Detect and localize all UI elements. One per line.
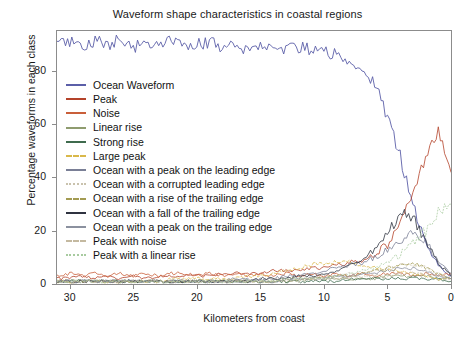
legend-swatch-line-icon	[66, 127, 86, 129]
x-tick-label: 15	[245, 291, 275, 303]
legend-label: Ocean with a fall of the trailing edge	[93, 208, 260, 219]
legend-swatch-line-icon	[66, 226, 86, 228]
x-tick-label: 0	[436, 291, 466, 303]
legend-item[interactable]: Peak	[66, 92, 275, 106]
y-tick-label: 20	[16, 224, 46, 236]
legend-label: Ocean with a peak on the leading edge	[93, 165, 275, 176]
legend-swatch-line-icon	[66, 183, 86, 185]
legend-label: Strong rise	[93, 137, 144, 148]
legend-label: Linear rise	[93, 122, 142, 133]
legend-label: Peak	[93, 94, 117, 105]
figure: Waveform shape characteristics in coasta…	[0, 0, 475, 339]
legend-item[interactable]: Peak with noise	[66, 234, 275, 248]
legend-item[interactable]: Large peak	[66, 149, 275, 163]
legend-label: Ocean with a peak on the trailing edge	[93, 222, 272, 233]
legend-swatch-line-icon	[66, 212, 86, 214]
y-tick-label: 40	[16, 170, 46, 182]
x-axis-label: Kilometers from coast	[56, 312, 452, 324]
legend-swatch-line-icon	[66, 254, 86, 256]
legend-label: Large peak	[93, 151, 146, 162]
y-tick-label: 60	[16, 117, 46, 129]
x-tick-mark	[451, 285, 452, 289]
x-tick-label: 5	[372, 291, 402, 303]
legend-label: Peak with noise	[93, 236, 167, 247]
legend-item[interactable]: Noise	[66, 106, 275, 120]
legend-swatch-line-icon	[66, 84, 86, 86]
legend-label: Ocean Waveform	[93, 80, 174, 91]
legend-swatch-line-icon	[66, 169, 86, 171]
x-tick-mark	[133, 285, 134, 289]
x-tick-mark	[387, 285, 388, 289]
x-tick-label: 20	[182, 291, 212, 303]
legend-swatch-line-icon	[66, 112, 86, 114]
legend-label: Noise	[93, 108, 120, 119]
chart-legend: Ocean WaveformPeakNoiseLinear riseStrong…	[66, 78, 275, 262]
legend-item[interactable]: Ocean with a rise of the trailing edge	[66, 192, 275, 206]
chart-title: Waveform shape characteristics in coasta…	[0, 8, 475, 20]
legend-swatch-line-icon	[66, 98, 86, 100]
x-tick-mark	[70, 285, 71, 289]
legend-item[interactable]: Ocean with a peak on the trailing edge	[66, 220, 275, 234]
legend-item[interactable]: Ocean with a fall of the trailing edge	[66, 206, 275, 220]
legend-item[interactable]: Strong rise	[66, 135, 275, 149]
legend-item[interactable]: Linear rise	[66, 121, 275, 135]
x-tick-mark	[260, 285, 261, 289]
legend-item[interactable]: Ocean with a peak on the leading edge	[66, 163, 275, 177]
y-tick-label: 0	[16, 277, 46, 289]
x-tick-label: 10	[309, 291, 339, 303]
x-tick-label: 30	[55, 291, 85, 303]
legend-swatch-line-icon	[66, 198, 86, 200]
x-tick-label: 25	[118, 291, 148, 303]
legend-item[interactable]: Ocean with a corrupted leading edge	[66, 177, 275, 191]
legend-swatch-line-icon	[66, 240, 86, 242]
legend-label: Ocean with a corrupted leading edge	[93, 179, 265, 190]
legend-label: Ocean with a rise of the trailing edge	[93, 193, 263, 204]
legend-swatch-line-icon	[66, 155, 86, 157]
y-tick-label: 80	[16, 64, 46, 76]
x-tick-mark	[324, 285, 325, 289]
legend-label: Peak with a linear rise	[93, 250, 196, 261]
legend-item[interactable]: Ocean Waveform	[66, 78, 275, 92]
legend-swatch-line-icon	[66, 141, 86, 143]
x-tick-mark	[197, 285, 198, 289]
legend-item[interactable]: Peak with a linear rise	[66, 248, 275, 262]
